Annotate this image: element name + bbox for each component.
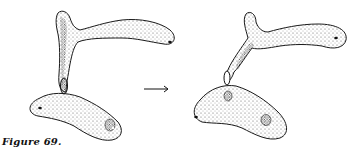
upper-cell-left <box>56 11 174 92</box>
illustration <box>0 0 355 154</box>
panel-before <box>30 11 174 140</box>
nucleus <box>105 119 115 131</box>
conjugation-bulb-right <box>224 71 230 85</box>
panel-after <box>194 12 346 139</box>
upper-cell-right <box>226 12 346 82</box>
migrating-nucleus <box>224 91 232 101</box>
nucleus-right <box>261 115 271 126</box>
transition-arrow <box>144 86 168 92</box>
figure-caption: Figure 69. <box>2 136 62 147</box>
lower-cell-left <box>30 93 121 140</box>
lower-cell-right <box>194 86 286 140</box>
conjugation-bulb <box>61 78 68 94</box>
